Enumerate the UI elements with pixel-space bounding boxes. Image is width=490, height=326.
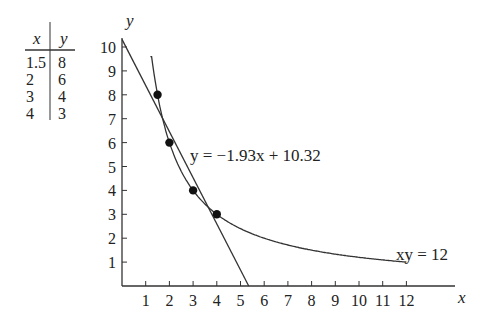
- table-cell-y: 4: [58, 88, 66, 105]
- y-tick-label: 2: [108, 230, 116, 247]
- regression-equation-label: y = −1.93x + 10.32: [190, 146, 321, 165]
- y-tick-label: 10: [100, 39, 116, 56]
- table-cell-x: 4: [26, 105, 34, 122]
- y-tick-label: 5: [108, 159, 116, 176]
- table-cell-y: 3: [58, 105, 66, 122]
- x-tick-label: 9: [331, 292, 339, 309]
- y-axis-label: y: [124, 11, 134, 30]
- x-tick-label: 3: [189, 292, 197, 309]
- x-tick-label: 6: [260, 292, 268, 309]
- y-tick-label: 8: [108, 87, 116, 104]
- hyperbola-equation-label: xy = 12: [396, 245, 448, 264]
- table-cell-x: 2: [26, 71, 34, 88]
- x-tick-label: 8: [308, 292, 316, 309]
- table-cell-x: 1.5: [26, 54, 46, 71]
- table-header-x: x: [32, 29, 41, 48]
- x-tick-label: 5: [237, 292, 245, 309]
- x-tick-label: 4: [213, 292, 221, 309]
- x-tick-label: 7: [284, 292, 292, 309]
- data-point: [165, 138, 173, 146]
- table-cell-y: 8: [58, 54, 66, 71]
- data-point: [189, 186, 197, 194]
- y-tick-label: 7: [108, 111, 116, 128]
- x-tick-label: 12: [398, 292, 414, 309]
- y-tick-label: 4: [108, 182, 116, 199]
- y-tick-label: 1: [108, 254, 116, 271]
- x-tick-label: 10: [351, 292, 367, 309]
- table-cell-x: 3: [26, 88, 34, 105]
- y-tick-label: 6: [108, 135, 116, 152]
- y-tick-label: 9: [108, 63, 116, 80]
- y-tick-label: 3: [108, 206, 116, 223]
- data-point: [153, 91, 161, 99]
- data-point: [213, 210, 221, 218]
- table-header-y: y: [58, 29, 68, 48]
- x-axis-label: x: [457, 288, 466, 307]
- x-tick-label: 1: [142, 292, 150, 309]
- x-tick-label: 2: [165, 292, 173, 309]
- chart: xy1.58263443yx12345678910111212345678910…: [0, 0, 490, 326]
- table-cell-y: 6: [58, 71, 66, 88]
- x-tick-label: 11: [375, 292, 390, 309]
